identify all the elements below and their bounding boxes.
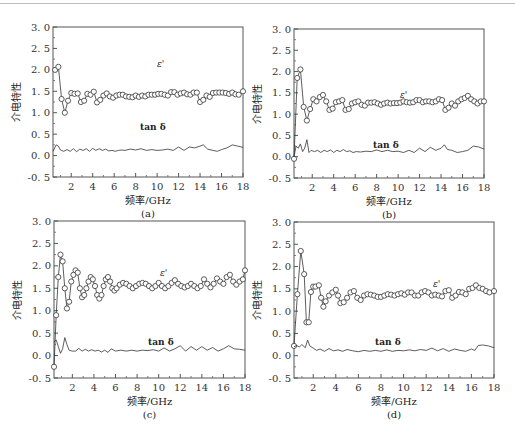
data-point — [227, 272, 232, 277]
y-axis-label: 介电特性 — [10, 82, 22, 122]
x-tick-label: 10 — [397, 382, 410, 393]
y-tick-label: 0. 5 — [31, 129, 50, 140]
data-point — [101, 283, 106, 288]
x-axis-label: 频率/GHz — [125, 194, 170, 206]
data-point — [64, 306, 69, 311]
tan-delta-annotation: tan δ — [375, 337, 401, 347]
data-point — [320, 92, 325, 97]
y-tick-label: -0. 5 — [269, 173, 291, 184]
x-tick-label: 2 — [69, 382, 75, 393]
epsilon-annotation: ε' — [433, 279, 440, 289]
data-point — [316, 283, 321, 288]
series-line-epsilon — [55, 67, 243, 113]
y-tick-label: 2. 5 — [272, 45, 291, 56]
x-tick-label: 4 — [91, 382, 97, 393]
data-point — [439, 294, 444, 299]
x-tick-label: 14 — [435, 182, 448, 193]
data-point — [301, 104, 306, 109]
y-tick-label: 1. 5 — [272, 87, 291, 98]
y-tick-label: -0. 5 — [28, 172, 50, 183]
data-point — [69, 279, 74, 284]
y-tick-label: 1. 5 — [32, 283, 51, 294]
x-tick-label: 12 — [172, 181, 185, 192]
x-tick-label: 2 — [309, 182, 315, 193]
y-tick-label: 2. 0 — [32, 260, 51, 271]
data-point — [333, 287, 338, 292]
panel-c: -0. 50. 00. 51. 01. 52. 02. 53. 02468101… — [11, 216, 251, 421]
x-axis-label: 频率/GHz — [366, 195, 411, 207]
y-tick-label: 3. 0 — [272, 217, 291, 228]
y-tick-label: 0. 0 — [32, 350, 51, 361]
data-point — [108, 279, 113, 284]
x-tick-label: 2 — [310, 382, 316, 393]
x-tick-label: 18 — [478, 182, 491, 193]
x-tick-label: 8 — [134, 382, 140, 393]
y-tick-label: 1. 5 — [272, 283, 291, 294]
data-point — [351, 288, 356, 293]
data-point — [51, 364, 56, 369]
tan-delta-annotation: tan δ — [148, 337, 174, 347]
data-point — [340, 97, 345, 102]
data-point — [308, 289, 313, 294]
data-point — [463, 292, 468, 297]
x-tick-label: 16 — [456, 182, 469, 193]
x-tick-label: 12 — [413, 182, 426, 193]
data-point — [306, 320, 311, 325]
data-point — [346, 106, 351, 111]
epsilon-annotation: ε' — [160, 268, 167, 278]
data-point — [446, 288, 451, 293]
data-point — [75, 270, 80, 275]
data-point — [62, 110, 67, 115]
data-point — [335, 293, 340, 298]
x-tick-label: 12 — [174, 382, 187, 393]
data-point — [84, 286, 89, 291]
panel-d: -0. 50. 00. 51. 01. 52. 02. 53. 02468101… — [251, 217, 500, 421]
data-point — [341, 300, 346, 305]
y-tick-label: 2. 0 — [31, 64, 50, 75]
y-tick-label: 2. 5 — [31, 43, 50, 54]
y-tick-label: -0. 5 — [29, 373, 51, 384]
x-tick-label: 12 — [420, 382, 433, 393]
x-tick-label: 14 — [442, 382, 455, 393]
y-tick-label: 0. 5 — [272, 130, 291, 141]
data-point — [221, 281, 226, 286]
y-tick-label: 0. 0 — [272, 350, 291, 361]
y-tick-label: 2. 0 — [272, 261, 291, 272]
data-point — [240, 89, 245, 94]
y-tick-label: 0. 0 — [272, 151, 291, 162]
x-tick-label: 6 — [111, 181, 117, 192]
data-point — [304, 118, 309, 123]
data-point — [92, 283, 97, 288]
x-tick-label: 8 — [132, 181, 138, 192]
x-tick-label: 10 — [151, 181, 164, 192]
y-tick-label: 2. 5 — [32, 238, 51, 249]
y-axis-label: 介电特性 — [11, 280, 23, 320]
data-point — [201, 277, 206, 282]
data-point — [67, 299, 72, 304]
panel-b: -0. 50. 00. 51. 01. 52. 02. 53. 02468101… — [251, 24, 490, 221]
data-point — [330, 106, 335, 111]
data-point — [302, 272, 307, 277]
x-tick-label: 10 — [392, 182, 405, 193]
x-tick-label: 8 — [378, 382, 384, 393]
data-point — [298, 248, 303, 253]
x-axis-label: 频率/GHz — [371, 395, 416, 407]
data-point — [58, 252, 63, 257]
x-tick-label: 16 — [465, 382, 478, 393]
y-tick-label: -0. 5 — [269, 373, 291, 384]
data-point — [56, 274, 61, 279]
x-tick-label: 2 — [68, 181, 74, 192]
x-tick-label: 14 — [194, 181, 207, 192]
data-point — [491, 288, 496, 293]
epsilon-annotation: ε' — [157, 59, 164, 69]
data-point — [345, 295, 350, 300]
data-point — [90, 277, 95, 282]
data-point — [358, 297, 363, 302]
x-tick-label: 16 — [217, 382, 230, 393]
y-tick-label: 3. 0 — [272, 24, 291, 35]
data-point — [324, 99, 329, 104]
y-tick-label: 2. 5 — [272, 239, 291, 250]
data-point — [298, 67, 303, 72]
data-point — [82, 292, 87, 297]
y-tick-label: 0. 0 — [31, 150, 50, 161]
